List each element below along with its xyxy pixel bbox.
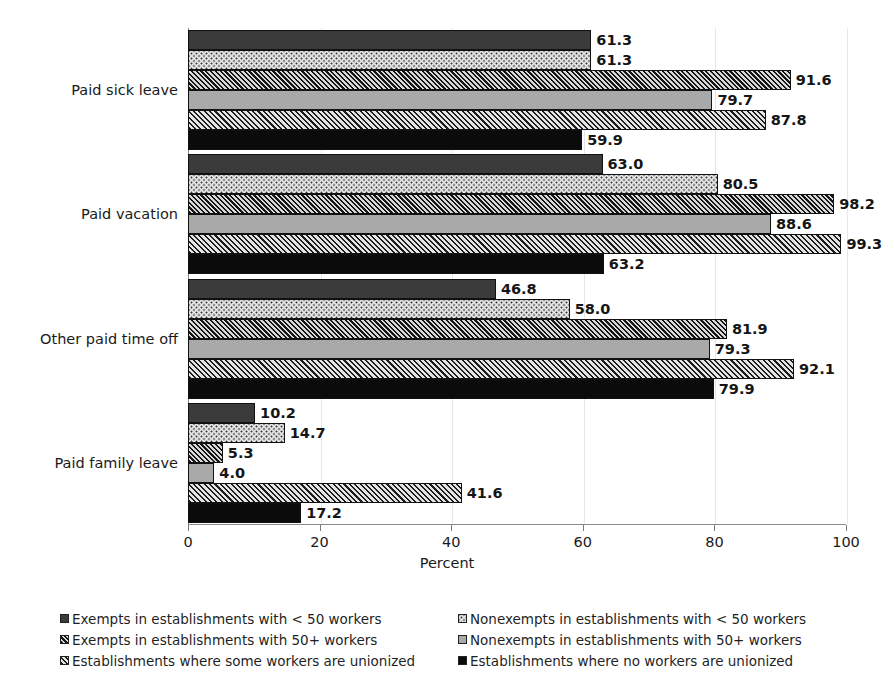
bar xyxy=(188,214,771,234)
bar xyxy=(188,299,570,319)
x-axis-tick-label: 20 xyxy=(310,534,328,550)
legend-label: Exempts in establishments with < 50 work… xyxy=(72,611,382,627)
bar-value-label: 4.0 xyxy=(214,463,245,483)
bar xyxy=(188,503,301,523)
legend-label: Establishments where no workers are unio… xyxy=(470,653,793,669)
bar xyxy=(188,379,714,399)
bar-value-label: 58.0 xyxy=(570,299,611,319)
bar xyxy=(188,403,255,423)
legend-item[interactable]: Nonexempts in establishments with 50+ wo… xyxy=(458,629,806,650)
bar xyxy=(188,339,710,359)
bar-value-label: 88.6 xyxy=(771,214,812,234)
bar-value-label: 81.9 xyxy=(727,319,768,339)
x-axis-tick-label: 100 xyxy=(832,534,860,550)
bar xyxy=(188,319,727,339)
bar-value-label: 63.0 xyxy=(603,154,644,174)
bar-value-label: 80.5 xyxy=(718,174,759,194)
x-axis-tick xyxy=(714,525,715,531)
category-label: Paid vacation xyxy=(0,206,178,222)
bar xyxy=(188,194,834,214)
legend-swatch-icon xyxy=(458,635,467,644)
bar-value-label: 79.3 xyxy=(710,339,751,359)
legend-swatch-icon xyxy=(60,614,69,623)
legend-item[interactable]: Establishments where no workers are unio… xyxy=(458,650,806,671)
bar-value-label: 99.3 xyxy=(841,234,882,254)
legend-label: Nonexempts in establishments with 50+ wo… xyxy=(470,632,802,648)
legend-item[interactable]: Exempts in establishments with < 50 work… xyxy=(60,608,415,629)
bar xyxy=(188,254,604,274)
x-axis-tick-label: 0 xyxy=(183,534,192,550)
legend-swatch-icon xyxy=(458,614,467,623)
x-axis-tick xyxy=(846,525,847,531)
bar xyxy=(188,50,591,70)
bar-value-label: 14.7 xyxy=(285,423,326,443)
legend-item[interactable]: Establishments where some workers are un… xyxy=(60,650,415,671)
x-axis-tick xyxy=(583,525,584,531)
bar xyxy=(188,359,794,379)
bar xyxy=(188,234,841,254)
bar-value-label: 92.1 xyxy=(794,359,835,379)
category-label: Paid sick leave xyxy=(0,82,178,98)
x-axis-title: Percent xyxy=(0,555,894,571)
bar-value-label: 79.7 xyxy=(712,90,753,110)
legend-label: Exempts in establishments with 50+ worke… xyxy=(72,632,377,648)
bar-value-label: 87.8 xyxy=(766,110,807,130)
legend-item[interactable]: Nonexempts in establishments with < 50 w… xyxy=(458,608,806,629)
bar-value-label: 41.6 xyxy=(462,483,503,503)
legend-column-left: Exempts in establishments with < 50 work… xyxy=(60,608,415,671)
chart-legend: Exempts in establishments with < 50 work… xyxy=(0,608,894,674)
bar xyxy=(188,279,496,299)
legend-swatch-icon xyxy=(60,656,69,665)
bar-value-label: 79.9 xyxy=(714,379,755,399)
legend-swatch-icon xyxy=(458,656,467,665)
bar xyxy=(188,70,791,90)
legend-swatch-icon xyxy=(60,635,69,644)
gridline xyxy=(847,28,848,524)
legend-label: Nonexempts in establishments with < 50 w… xyxy=(470,611,806,627)
x-axis-tick xyxy=(188,525,189,531)
bar xyxy=(188,110,766,130)
bar-value-label: 17.2 xyxy=(301,503,342,523)
bar-value-label: 46.8 xyxy=(496,279,537,299)
bar xyxy=(188,30,591,50)
bar xyxy=(188,154,603,174)
bar xyxy=(188,174,718,194)
bar xyxy=(188,130,582,150)
x-axis-tick-label: 80 xyxy=(705,534,723,550)
category-label: Other paid time off xyxy=(0,331,178,347)
bar xyxy=(188,463,214,483)
legend-label: Establishments where some workers are un… xyxy=(72,653,415,669)
legend-column-right: Nonexempts in establishments with < 50 w… xyxy=(458,608,806,671)
bar-value-label: 98.2 xyxy=(834,194,875,214)
bar-value-label: 61.3 xyxy=(591,50,632,70)
category-label: Paid family leave xyxy=(0,455,178,471)
x-axis-tick-label: 40 xyxy=(442,534,460,550)
bar xyxy=(188,423,285,443)
bar-value-label: 5.3 xyxy=(223,443,254,463)
bar-value-label: 59.9 xyxy=(582,130,623,150)
x-axis-tick-label: 60 xyxy=(574,534,592,550)
bar xyxy=(188,483,462,503)
x-axis-tick xyxy=(320,525,321,531)
bar-value-label: 10.2 xyxy=(255,403,296,423)
bar-value-label: 63.2 xyxy=(604,254,645,274)
bar-value-label: 61.3 xyxy=(591,30,632,50)
bar xyxy=(188,90,712,110)
bar-value-label: 91.6 xyxy=(791,70,832,90)
x-axis-tick xyxy=(451,525,452,531)
bar xyxy=(188,443,223,463)
legend-item[interactable]: Exempts in establishments with 50+ worke… xyxy=(60,629,415,650)
bar-chart: Paid sick leavePaid vacationOther paid t… xyxy=(0,0,894,674)
